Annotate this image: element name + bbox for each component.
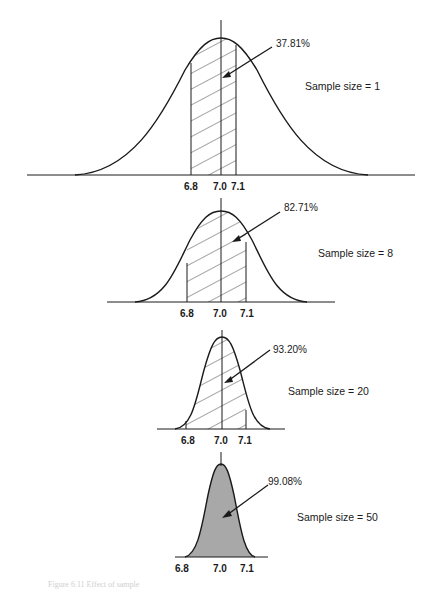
chart-panel-n20: 93.20% Sample size = 20 6.8 7.0 7.1 [157,330,369,446]
percent-label: 82.71% [284,202,318,213]
shaded-region [186,330,246,429]
sample-size-label: Sample size = 50 [297,511,378,523]
sample-size-label: Sample size = 20 [288,385,369,397]
tick-6-8: 6.8 [175,563,189,574]
chart-panel-n1: 37.81% Sample size = 1 6.8 7.0 7.1 [27,20,415,192]
chart-panel-n50: 99.08% Sample size = 50 6.8 7.0 7.1 [175,452,378,574]
shaded-region [191,20,236,175]
shaded-region [187,200,246,302]
percent-label: 93.20% [273,344,307,355]
tick-7-1: 7.1 [231,181,245,192]
percent-label: 99.08% [268,476,302,487]
tick-6-8: 6.8 [184,181,198,192]
tick-7-0: 7.0 [214,435,228,446]
tick-7-0: 7.0 [213,563,227,574]
chart-panel-n8: 82.71% Sample size = 8 6.8 7.0 7.1 [107,198,393,319]
tick-6-8: 6.8 [180,308,194,319]
sample-size-label: Sample size = 1 [305,80,380,92]
tick-7-0: 7.0 [213,181,227,192]
sample-size-label: Sample size = 8 [318,247,393,259]
tick-7-0: 7.0 [213,308,227,319]
tick-7-1: 7.1 [238,435,252,446]
sampling-distribution-figure: 37.81% Sample size = 1 6.8 7.0 7.1 82.71… [0,0,429,589]
figure-caption: Figure 6.11 Effect of sample [48,580,140,589]
tick-6-8: 6.8 [181,435,195,446]
tick-7-1: 7.1 [240,563,254,574]
tick-7-1: 7.1 [240,308,254,319]
percent-label: 37.81% [276,38,310,49]
